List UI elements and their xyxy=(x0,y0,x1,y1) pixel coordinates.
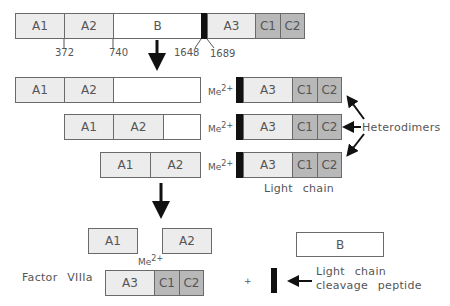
arrow-icon xyxy=(350,134,364,152)
tick-1648 xyxy=(195,39,201,48)
arrow-icon xyxy=(350,100,364,119)
arrows-overlay xyxy=(0,0,450,306)
tick-1689 xyxy=(207,39,214,48)
